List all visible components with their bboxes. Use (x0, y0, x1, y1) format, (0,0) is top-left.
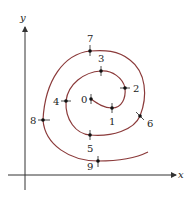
point-label-5: 5 (87, 143, 93, 154)
x-axis-label: x (178, 169, 184, 180)
point-9: 9 (87, 156, 100, 172)
spiral-diagram: y x 0 1 2 3 4 5 6 7 (0, 0, 192, 198)
point-7: 7 (87, 33, 93, 56)
point-label-4: 4 (53, 96, 59, 107)
point-label-2: 2 (133, 83, 139, 94)
point-label-6: 6 (147, 118, 153, 129)
point-2: 2 (120, 83, 139, 94)
y-axis-label: y (19, 12, 26, 23)
point-4: 4 (53, 96, 71, 107)
point-5: 5 (87, 130, 93, 154)
point-label-1: 1 (109, 116, 115, 127)
point-label-8: 8 (30, 115, 36, 126)
point-6: 6 (136, 112, 153, 129)
point-label-9: 9 (87, 161, 93, 172)
point-1: 1 (109, 103, 115, 127)
point-label-3: 3 (98, 53, 104, 64)
point-label-7: 7 (87, 33, 93, 44)
point-8: 8 (30, 115, 50, 126)
point-0: 0 (81, 94, 93, 105)
point-3: 3 (98, 53, 104, 76)
point-label-0: 0 (81, 94, 87, 105)
